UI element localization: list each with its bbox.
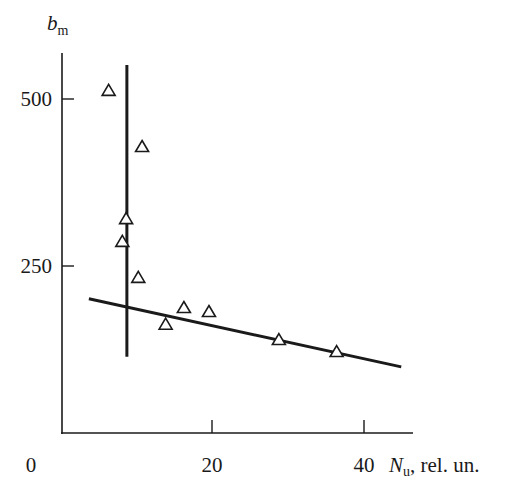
y-axis-title: bm: [47, 11, 69, 38]
triangle-marker-icon: [136, 140, 149, 151]
fit-lines: [89, 65, 401, 367]
triangle-marker-icon: [159, 318, 172, 329]
axis-labels: 25050002040bmNu, rel. un.: [21, 11, 480, 479]
x-axis-title: Nu, rel. un.: [388, 453, 479, 479]
axes: [61, 53, 413, 434]
x-tick-label: 20: [202, 453, 223, 477]
y-tick-label: 500: [21, 87, 53, 111]
x-tick-label: 0: [26, 453, 37, 477]
triangle-marker-icon: [202, 305, 215, 316]
data-points: [102, 84, 343, 356]
chart-figure: 25050002040bmNu, rel. un.: [0, 0, 513, 491]
triangle-marker-icon: [132, 271, 145, 282]
triangle-marker-icon: [102, 84, 115, 95]
y-tick-label: 250: [21, 254, 53, 278]
sloped-fit-line: [89, 299, 401, 367]
triangle-marker-icon: [177, 301, 190, 312]
x-tick-label: 40: [354, 453, 375, 477]
triangle-marker-icon: [120, 213, 133, 224]
